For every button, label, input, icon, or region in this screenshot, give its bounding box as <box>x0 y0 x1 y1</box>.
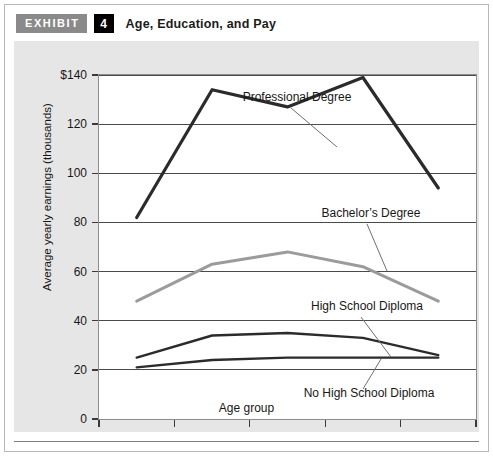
annotation-leader-line-0 <box>291 108 337 147</box>
chart-panel: Average yearly earnings (thousands) 0204… <box>14 41 479 432</box>
series-line-1 <box>137 252 439 301</box>
x-tick-label-0: 25–34 <box>120 431 154 432</box>
x-tick-label-4: 65+ <box>428 431 448 432</box>
annotation-label-3: No High School Diploma <box>304 386 435 400</box>
annotation-label-2: High School Diploma <box>311 299 423 313</box>
x-tick-label-1: 35–44 <box>195 431 229 432</box>
exhibit-header: EXHIBIT 4 Age, Education, and Pay <box>16 13 276 34</box>
page-title: Age, Education, and Pay <box>126 17 276 31</box>
exhibit-badge: EXHIBIT <box>16 14 87 33</box>
x-tick-label-3: 55–64 <box>346 431 380 432</box>
x-tick-label-2: 45–54 <box>271 431 305 432</box>
annotation-label-1: Bachelor’s Degree <box>322 206 421 220</box>
y-tick-label-5: 100 <box>67 166 87 180</box>
plot-area: Professional DegreeBachelor’s DegreeHigh… <box>98 74 477 420</box>
series-line-3 <box>137 358 439 368</box>
y-tick-label-2: 40 <box>74 314 88 328</box>
annotation-leader-line-1 <box>367 224 387 271</box>
annotation-label-0: Professional Degree <box>243 90 352 104</box>
y-tick-label-4: 80 <box>74 215 88 229</box>
exhibit-page: EXHIBIT 4 Age, Education, and Pay Averag… <box>0 0 493 456</box>
y-tick-label-3: 60 <box>74 265 88 279</box>
bottom-divider <box>14 441 479 442</box>
y-tick-label-7: $140 <box>60 68 87 82</box>
y-tick-label-6: 120 <box>67 117 87 131</box>
x-axis-title: Age group <box>14 401 479 415</box>
exhibit-number-badge: 4 <box>94 14 114 33</box>
series-line-2 <box>137 333 439 358</box>
annotation-leader-line-2 <box>361 317 391 357</box>
y-tick-label-1: 20 <box>74 363 88 377</box>
annotation-leader-line-3 <box>363 359 381 389</box>
series-layer: Professional DegreeBachelor’s DegreeHigh… <box>99 75 476 419</box>
